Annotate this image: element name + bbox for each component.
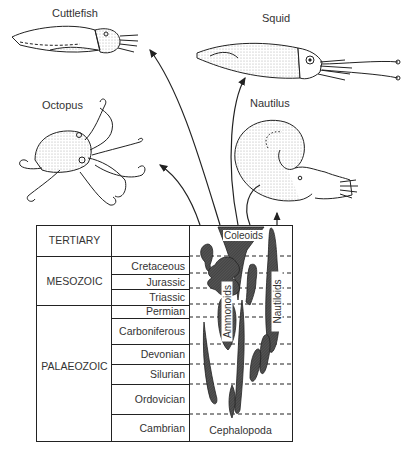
row-divider xyxy=(111,414,190,415)
label-nautiloids: Nautiloids xyxy=(272,272,283,332)
period-cambrian: Cambrian xyxy=(112,422,188,434)
label-ammonoids: Ammonoids xyxy=(222,282,233,342)
label-octopus: Octopus xyxy=(42,99,83,111)
octopus-illustration xyxy=(20,99,145,205)
row-divider xyxy=(111,289,190,290)
period-permian: Permian xyxy=(112,305,188,317)
squid-illustration xyxy=(197,43,400,80)
period-carboniferous: Carboniferous xyxy=(112,325,188,337)
column-divider xyxy=(189,226,190,441)
era-palaeozoic: PALAEOZOIC xyxy=(37,360,112,372)
label-squid: Squid xyxy=(262,12,290,24)
period-devonian: Devonian xyxy=(112,348,188,360)
label-nautilus: Nautilus xyxy=(250,97,290,109)
row-divider xyxy=(111,274,190,275)
row-divider xyxy=(111,384,190,385)
era-mesozoic: MESOZOIC xyxy=(37,275,112,287)
label-coleoids: Coleoids xyxy=(223,230,264,241)
period-jurassic: Jurassic xyxy=(112,276,188,288)
row-divider xyxy=(111,364,190,365)
cuttlefish-illustration xyxy=(12,26,138,53)
label-cephalopoda: Cephalopoda xyxy=(189,424,292,436)
period-triassic: Triassic xyxy=(112,291,188,303)
row-divider xyxy=(111,318,190,319)
nautilus-illustration xyxy=(235,120,358,201)
label-cuttlefish: Cuttlefish xyxy=(52,7,98,19)
period-ordovician: Ordovician xyxy=(112,393,188,405)
geologic-time-table: TERTIARY MESOZOIC PALAEOZOIC Cretaceous … xyxy=(36,225,293,442)
period-cretaceous: Cretaceous xyxy=(112,260,188,272)
era-tertiary: TERTIARY xyxy=(37,234,112,246)
row-divider xyxy=(111,344,190,345)
period-silurian: Silurian xyxy=(112,368,188,380)
row-divider xyxy=(37,256,190,257)
